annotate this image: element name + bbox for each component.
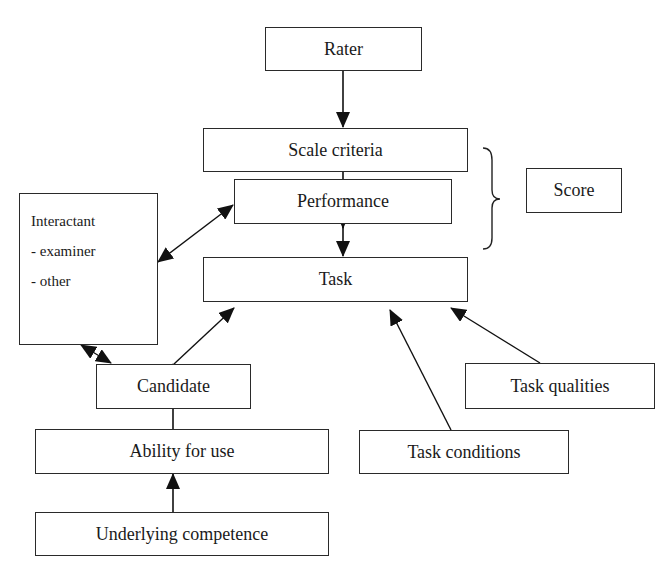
node-ability-for-use-label: Ability for use [130,441,235,462]
node-task-qualities: Task qualities [465,363,655,409]
arrow-candidate-to-task [174,308,234,364]
node-scale-criteria-label: Scale criteria [288,140,382,161]
node-task-conditions: Task conditions [359,430,569,474]
arrow-task-qualities-to-task [451,308,540,363]
node-task-conditions-label: Task conditions [407,442,520,463]
node-rater: Rater [265,27,422,71]
curly-brace [483,148,500,249]
node-candidate: Candidate [96,364,251,409]
arrow-interactant-performance [158,205,233,262]
node-rater-label: Rater [324,39,363,60]
node-score-label: Score [554,180,595,201]
node-underlying-competence: Underlying competence [35,512,329,556]
node-task-label: Task [319,269,353,290]
node-interactant-item-other: - other [31,266,71,296]
node-task-qualities-label: Task qualities [510,376,609,397]
node-interactant-item-examiner: - examiner [31,236,96,266]
node-performance-label: Performance [297,191,389,212]
arrow-task-conditions-to-task [390,310,451,430]
node-scale-criteria: Scale criteria [203,128,468,172]
node-ability-for-use: Ability for use [35,429,329,474]
node-interactant-title: Interactant [31,206,95,236]
node-score: Score [526,168,622,213]
node-underlying-competence-label: Underlying competence [96,524,268,545]
arrow-interactant-candidate [81,345,111,363]
node-performance: Performance [234,179,452,224]
node-interactant: Interactant - examiner - other [19,193,158,345]
node-task: Task [203,257,468,302]
node-candidate-label: Candidate [137,376,210,397]
